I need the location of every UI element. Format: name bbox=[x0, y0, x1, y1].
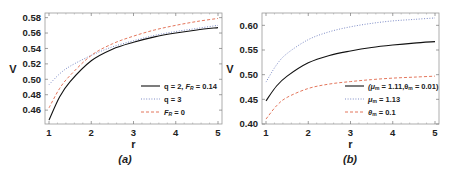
y-axis-label: V bbox=[9, 63, 17, 75]
x-axis-label: r bbox=[348, 138, 353, 150]
y-tick-label: 0.54 bbox=[23, 43, 42, 54]
panel-caption: (a) bbox=[118, 153, 132, 165]
series-line bbox=[266, 42, 435, 101]
x-tick-label: 2 bbox=[89, 127, 94, 138]
y-tick-label: 0.45 bbox=[240, 94, 259, 105]
series-line bbox=[49, 28, 218, 121]
y-tick-label: 0.40 bbox=[240, 118, 259, 129]
x-tick-label: 3 bbox=[131, 127, 136, 138]
legend-label: q = 2, FR = 0.14 bbox=[164, 82, 218, 92]
x-tick-label: 2 bbox=[306, 127, 311, 138]
x-tick-label: 4 bbox=[390, 127, 396, 138]
x-tick-label: 5 bbox=[432, 127, 438, 138]
series-line bbox=[49, 25, 218, 84]
legend-label: μm = 1.13 bbox=[367, 95, 400, 105]
x-axis-label: r bbox=[131, 138, 136, 150]
y-tick-label: 0.56 bbox=[23, 27, 42, 38]
legend-label: θm = 0.1 bbox=[368, 108, 396, 118]
x-tick-label: 4 bbox=[173, 127, 179, 138]
y-tick-label: 0.55 bbox=[240, 44, 259, 55]
y-tick-label: 0.46 bbox=[23, 104, 42, 115]
legend-label: FR = 0 bbox=[164, 108, 185, 118]
y-tick-label: 0.48 bbox=[23, 89, 42, 100]
y-axis-label: V bbox=[226, 63, 234, 75]
series-line bbox=[266, 18, 435, 82]
chart-panel-b: 123450.400.450.500.550.60rV(b)(μm = 1.11… bbox=[226, 13, 439, 165]
panel-caption: (b) bbox=[343, 153, 357, 165]
y-tick-label: 0.50 bbox=[240, 69, 259, 80]
figure: 123450.460.480.500.520.540.560.58rV(a)q … bbox=[0, 0, 452, 172]
y-tick-label: 0.52 bbox=[23, 58, 42, 69]
y-tick-label: 0.60 bbox=[240, 20, 259, 31]
x-tick-label: 5 bbox=[215, 127, 221, 138]
x-tick-label: 1 bbox=[46, 127, 52, 138]
legend-label: q = 3 bbox=[164, 95, 181, 104]
x-tick-label: 3 bbox=[348, 127, 353, 138]
plot-frame bbox=[262, 13, 439, 124]
y-tick-label: 0.58 bbox=[23, 12, 42, 23]
y-tick-label: 0.50 bbox=[23, 74, 42, 85]
x-tick-label: 1 bbox=[263, 127, 269, 138]
series-line bbox=[266, 76, 435, 119]
chart-panel-a: 123450.460.480.500.520.540.560.58rV(a)q … bbox=[9, 12, 222, 165]
series-line bbox=[49, 18, 218, 107]
legend-label: (μm = 1.11,θm = 0.01) bbox=[368, 82, 439, 92]
